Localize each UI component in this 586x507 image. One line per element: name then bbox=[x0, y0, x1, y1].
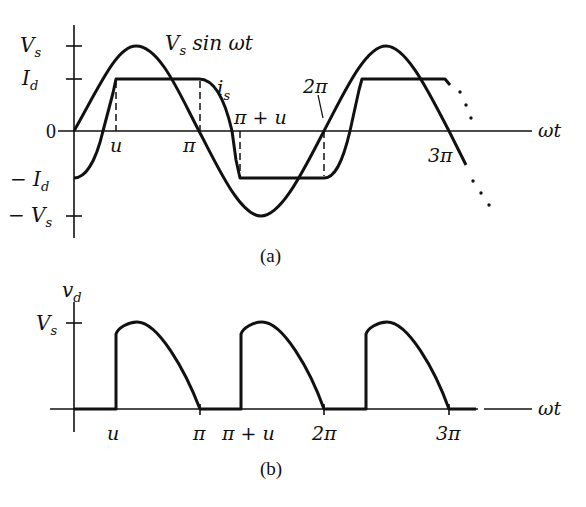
vd-output-curve bbox=[74, 322, 476, 409]
label-neg-id-a: − Id bbox=[10, 167, 49, 194]
panel-a: Vs Id 0 − Id − Vs Vs sin ωt is u π π + u… bbox=[8, 25, 561, 267]
label-pi-a: π bbox=[182, 134, 196, 156]
label-pi-u-b: π + u bbox=[221, 422, 275, 444]
leader-2pi bbox=[318, 95, 323, 118]
label-neg-vs-a: − Vs bbox=[8, 203, 53, 230]
is-current-curve bbox=[74, 79, 450, 178]
label-3pi-b: 3π bbox=[436, 422, 461, 444]
label-vs-sin-wt: Vs sin ωt bbox=[165, 31, 254, 58]
label-id-a: Id bbox=[21, 66, 38, 93]
label-wt-b: ωt bbox=[538, 397, 561, 419]
continuation-dots bbox=[458, 90, 490, 206]
label-vs-a: Vs bbox=[20, 33, 41, 60]
label-2pi-b: 2π bbox=[311, 422, 337, 444]
label-vs-b: Vs bbox=[36, 311, 57, 338]
diagram-canvas: Vs Id 0 − Id − Vs Vs sin ωt is u π π + u… bbox=[0, 0, 586, 507]
panel-b: vd Vs u π π + u 2π 3π ωt (b) bbox=[36, 278, 561, 480]
label-zero-a: 0 bbox=[46, 120, 56, 142]
label-is: is bbox=[217, 76, 230, 103]
label-u-a: u bbox=[110, 134, 122, 156]
label-3pi-a: 3π bbox=[428, 144, 453, 166]
label-u-b: u bbox=[107, 422, 119, 444]
label-2pi-a: 2π bbox=[302, 75, 328, 97]
caption-b: (b) bbox=[260, 458, 282, 480]
label-wt-a: ωt bbox=[538, 119, 561, 141]
caption-a: (a) bbox=[260, 245, 281, 267]
label-vd: vd bbox=[62, 278, 82, 305]
label-pi-b: π bbox=[192, 422, 206, 444]
label-pi-u-a: π + u bbox=[233, 106, 287, 128]
